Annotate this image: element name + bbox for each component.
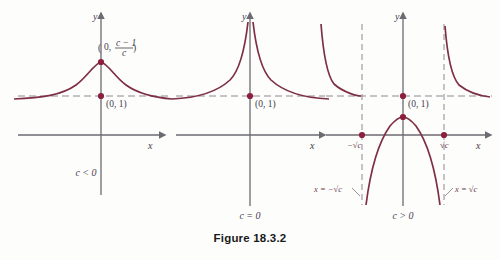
peak-label-prefix: 0,	[104, 42, 111, 52]
peak-label-denominator: c	[122, 48, 127, 58]
point-0-1	[247, 93, 253, 99]
panel-c-negative: y x (0, 1) ( 0, c − 1 c ) c < 0	[14, 11, 172, 195]
curve-right-branch	[253, 22, 329, 99]
curve-outer-left	[321, 24, 361, 96]
panel-c-positive: y x (0, 1) −√c √c x = −√c x = √c c > 0	[313, 11, 492, 221]
leader-line-right	[445, 188, 453, 196]
case-label-c-zero: c = 0	[239, 210, 260, 221]
point-arch-peak	[400, 114, 406, 120]
point-label-peak: ( 0, c − 1 c )	[98, 38, 136, 58]
y-axis-label: y	[394, 11, 400, 22]
figure-canvas: y x (0, 1) ( 0, c − 1 c ) c < 0	[0, 0, 500, 260]
panel-c-zero: y x (0, 1) c = 0	[172, 11, 329, 221]
curve-c-negative	[14, 62, 172, 99]
point-0-1	[400, 93, 406, 99]
x-tick-label-left: −√c	[347, 140, 361, 150]
point-0-1	[98, 93, 104, 99]
point-label-0-1: (0, 1)	[255, 99, 276, 110]
figure-root: y x (0, 1) ( 0, c − 1 c ) c < 0	[0, 0, 500, 260]
curve-left-branch	[172, 22, 248, 99]
x-axis-label: x	[309, 140, 315, 151]
leader-line-left	[352, 188, 360, 196]
point-label-0-1: (0, 1)	[408, 99, 429, 110]
x-tick-label-right: √c	[440, 140, 449, 150]
curve-outer-right	[445, 26, 490, 97]
point-root-right	[441, 132, 447, 138]
y-axis-label: y	[241, 11, 247, 22]
asymptote-label-right: x = √c	[454, 184, 477, 194]
paren-close: )	[133, 43, 136, 54]
point-root-left	[359, 132, 365, 138]
paren-open: (	[98, 43, 101, 54]
y-axis-label: y	[92, 11, 98, 22]
case-label-c-positive: c > 0	[392, 210, 413, 221]
point-peak	[98, 59, 104, 65]
asymptote-label-left: x = −√c	[313, 184, 342, 194]
figure-caption: Figure 18.3.2	[0, 232, 500, 244]
x-axis-label: x	[475, 140, 481, 151]
point-label-0-1: (0, 1)	[106, 99, 127, 110]
case-label-c-negative: c < 0	[75, 167, 96, 178]
x-axis-label: x	[147, 140, 153, 151]
